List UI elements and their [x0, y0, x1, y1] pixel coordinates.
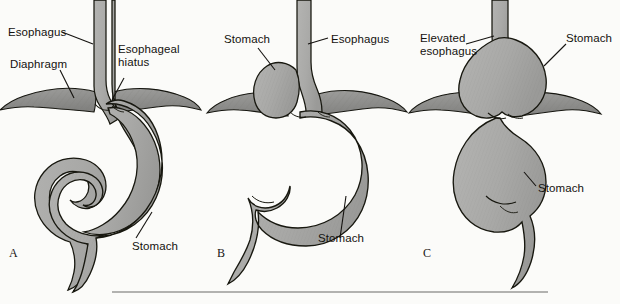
- label-esophageal-hiatus-line2: hiatus: [118, 56, 149, 69]
- label-elevated-esophagus-line2: esophagus: [420, 45, 477, 58]
- hiatal-hernia-figure: Esophagus Diaphragm Esophageal hiatus St…: [0, 0, 620, 304]
- label-diaphragm-a: Diaphragm: [10, 58, 67, 71]
- panel-letter-a: A: [9, 246, 18, 261]
- label-esophagus-a: Esophagus: [8, 26, 66, 39]
- label-esophageal-hiatus-line1: Esophageal: [118, 43, 180, 56]
- label-stomach-a: Stomach: [132, 240, 178, 253]
- anatomical-illustration: [0, 0, 620, 304]
- label-stomach-lower-b: Stomach: [318, 232, 364, 245]
- label-stomach-upper-b: Stomach: [224, 33, 270, 46]
- label-stomach-upper-c: Stomach: [566, 32, 612, 45]
- panel-letter-b: B: [217, 246, 225, 261]
- leader-esophagus-a: [62, 32, 93, 44]
- esophagus-b: [297, 0, 322, 112]
- label-elevated-esophagus-line1: Elevated: [420, 32, 466, 45]
- panel-letter-c: C: [423, 246, 431, 261]
- leader-stomach-upper-c: [544, 44, 566, 66]
- label-stomach-lower-c: Stomach: [538, 182, 584, 195]
- label-esophagus-b: Esophagus: [331, 33, 389, 46]
